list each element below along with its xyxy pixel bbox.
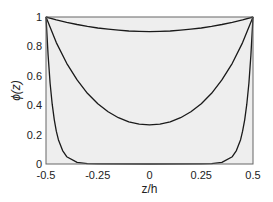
y-tick-label: 1 — [36, 11, 42, 23]
y-tick-label: 0.6 — [27, 70, 42, 82]
x-tick-label: 0 — [146, 169, 152, 181]
y-axis-label: ϕ(z) — [9, 80, 23, 101]
y-tick-label: 0 — [36, 158, 42, 170]
x-axis-label: z/h — [141, 182, 157, 196]
x-tick-label: -0.25 — [85, 169, 110, 181]
x-tick-label: 0.25 — [191, 169, 212, 181]
y-tick-label: 0.8 — [27, 40, 42, 52]
x-axis-ticks: -0.5-0.2500.250.5 — [37, 169, 261, 181]
x-tick-label: -0.5 — [37, 169, 56, 181]
y-tick-label: 0.4 — [27, 99, 42, 111]
x-tick-label: 0.5 — [245, 169, 260, 181]
chart: -0.5-0.2500.250.5 00.20.40.60.81 z/h ϕ(z… — [0, 0, 273, 202]
y-axis-ticks: 00.20.40.60.81 — [27, 11, 42, 170]
y-tick-label: 0.2 — [27, 129, 42, 141]
plot-area — [46, 17, 253, 164]
